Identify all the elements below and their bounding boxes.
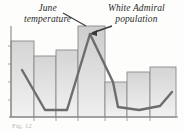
annotation-white-admiral-line1: White Admiral xyxy=(108,3,165,14)
annotation-white-admiral-line2: population xyxy=(108,14,165,25)
annotation-june-temperature: June temperature xyxy=(24,3,71,24)
bar-1 xyxy=(11,41,34,117)
annotation-june-line1: June xyxy=(24,3,71,14)
figure-caption: Fig. 12 xyxy=(12,122,32,130)
annotation-june-line2: temperature xyxy=(24,14,71,25)
chart-figure: June temperature White Admiral populatio… xyxy=(0,0,184,131)
annotation-white-admiral-population: White Admiral population xyxy=(108,3,165,24)
